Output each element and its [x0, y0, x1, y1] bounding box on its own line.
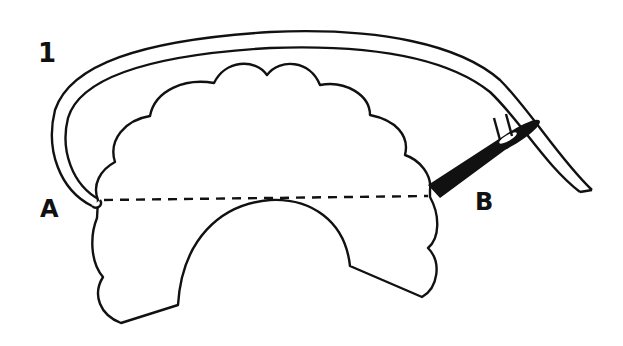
- fabric-piece: [92, 64, 437, 323]
- thread-end-a: [92, 200, 101, 208]
- step-number: 1: [38, 38, 56, 68]
- stitch-diagram: [0, 0, 623, 346]
- needle-icon: [428, 120, 540, 198]
- point-b-label: B: [475, 188, 493, 216]
- point-a-label: A: [40, 195, 59, 223]
